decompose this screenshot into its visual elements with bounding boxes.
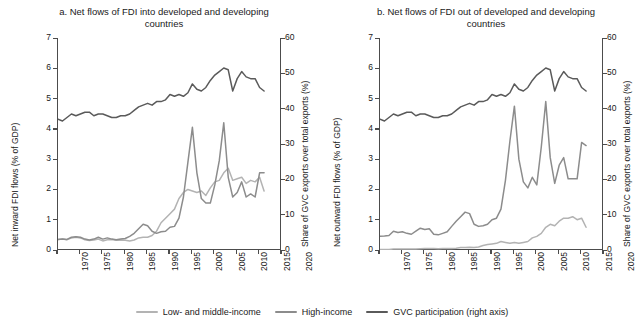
x-axis-tick-mark [101,250,102,254]
y-axis-right-tick: 10 [285,209,305,219]
x-axis-tick-mark [378,250,379,254]
plot-lines [380,38,604,250]
y-axis-tick: 0 [355,244,373,254]
y-axis-right-tick-mark [281,144,285,145]
y-axis-right-tick: 40 [285,103,305,113]
y-axis-tick-mark [53,98,57,99]
y-axis-right-tick: 40 [607,103,627,113]
y-axis-right-tick: 20 [607,173,627,183]
y-axis-tick: 4 [33,123,51,133]
y-axis-tick: 4 [355,123,373,133]
legend-label: GVC participation (right axis) [393,307,508,317]
x-axis-tick: 1995 [192,252,202,271]
y-axis-right-tick-mark [603,214,607,215]
y-axis-tick-mark [375,38,379,39]
y-axis-right-tick: 60 [285,32,305,42]
y-axis-tick: 1 [355,214,373,224]
panel-b-plot-area [379,38,603,250]
x-axis-tick-mark [490,250,491,254]
y-axis-tick: 6 [33,62,51,72]
x-axis-tick-mark [468,250,469,254]
chart-panel-b: b. Net flows of FDI out of developed and… [322,0,644,290]
y-axis-tick-mark [53,159,57,160]
chart-figure: a. Net flows of FDI into developed and d… [0,0,644,325]
x-axis-tick: 2000 [536,252,546,271]
x-axis-tick: 1990 [170,252,180,271]
panel-a-y-axis-label: Net inward FDI flows (% of GDP) [10,123,20,247]
chart-legend: Low- and middle-income High-income GVC p… [0,307,644,317]
y-axis-right-tick: 20 [285,173,305,183]
x-axis-tick-mark [124,250,125,254]
x-axis-tick-mark [146,250,147,254]
y-axis-right-tick-mark [281,214,285,215]
y-axis-right-tick-mark [603,250,607,251]
y-axis-tick: 5 [355,93,373,103]
x-axis-tick-mark [446,250,447,254]
y-axis-tick-mark [375,159,379,160]
y-axis-tick-mark [53,219,57,220]
y-axis-tick-mark [53,38,57,39]
x-axis-tick: 2010 [259,252,269,271]
y-axis-right-tick-mark [281,250,285,251]
y-axis-right-tick-mark [281,108,285,109]
x-axis-tick-mark [168,250,169,254]
y-axis-tick-mark [375,98,379,99]
y-axis-right-tick-mark [603,179,607,180]
x-axis-tick-mark [513,250,514,254]
y-axis-tick: 6 [355,62,373,72]
y-axis-right-tick: 30 [607,138,627,148]
y-axis-tick: 7 [33,32,51,42]
legend-item-high-income: High-income [275,307,353,317]
legend-swatch-icon [366,311,388,314]
y-axis-tick: 0 [33,244,51,254]
panel-b-y-axis-label: Net outward FDI flows (% of GDP) [332,118,342,247]
panel-a-plot-area [57,38,281,250]
x-axis-tick-mark [558,250,559,254]
y-axis-right-tick-mark [281,179,285,180]
legend-item-gvc-participation: GVC participation (right axis) [366,307,508,317]
y-axis-right-tick-mark [281,73,285,74]
y-axis-tick-mark [375,219,379,220]
x-axis-tick-mark [213,250,214,254]
x-axis-tick: 1970 [402,252,412,271]
y-axis-tick-mark [53,68,57,69]
y-axis-tick-mark [375,128,379,129]
x-axis-tick: 2005 [237,252,247,271]
x-axis-tick-mark [602,250,603,254]
y-axis-right-tick-mark [281,38,285,39]
panel-a-title: a. Net flows of FDI into developed and d… [40,6,288,30]
y-axis-right-tick: 30 [285,138,305,148]
x-axis-tick: 1970 [80,252,90,271]
legend-label: Low- and middle-income [163,307,261,317]
y-axis-tick: 3 [33,153,51,163]
x-axis-tick: 1990 [492,252,502,271]
x-axis-tick-mark [191,250,192,254]
legend-item-low-and-middle-income: Low- and middle-income [136,307,261,317]
y-axis-tick: 5 [33,93,51,103]
y-axis-tick: 2 [355,183,373,193]
y-axis-right-tick-mark [603,38,607,39]
y-axis-right-tick: 10 [607,209,627,219]
y-axis-right-tick-mark [603,144,607,145]
legend-label: High-income [302,307,353,317]
x-axis-tick: 2000 [214,252,224,271]
x-axis-tick-mark [258,250,259,254]
y-axis-right-tick: 50 [285,67,305,77]
y-axis-tick: 1 [33,214,51,224]
x-axis-tick: 1975 [424,252,434,271]
x-axis-tick-mark [280,250,281,254]
y-axis-tick-mark [53,189,57,190]
chart-panel-a: a. Net flows of FDI into developed and d… [0,0,322,290]
y-axis-tick: 3 [355,153,373,163]
y-axis-tick-mark [375,68,379,69]
y-axis-tick-mark [53,128,57,129]
y-axis-tick: 7 [355,32,373,42]
x-axis-tick: 2005 [559,252,569,271]
x-axis-tick-mark [401,250,402,254]
x-axis-tick: 1985 [469,252,479,271]
x-axis-tick: 2010 [581,252,591,271]
y-axis-right-tick-mark [603,73,607,74]
x-axis-tick-mark [535,250,536,254]
x-axis-tick: 2020 [626,252,636,271]
x-axis-tick: 2015 [282,252,292,271]
